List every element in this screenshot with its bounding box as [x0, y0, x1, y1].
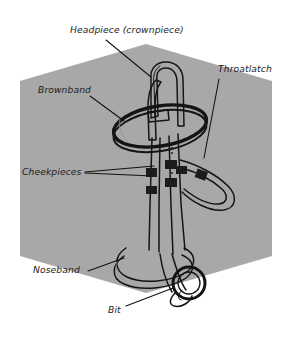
label-cheekpieces: Cheekpieces: [22, 166, 82, 177]
bridle-diagram-figure: Headpiece (crownpiece) Throatlatch Brown…: [0, 0, 292, 337]
label-brownband: Brownband: [38, 84, 91, 95]
diagram-canvas: Headpiece (crownpiece) Throatlatch Brown…: [0, 0, 292, 337]
label-headpiece: Headpiece (crownpiece): [70, 24, 184, 35]
label-throatlatch: Throatlatch: [218, 63, 272, 74]
label-bit: Bit: [108, 304, 121, 315]
label-noseband: Noseband: [33, 264, 80, 275]
